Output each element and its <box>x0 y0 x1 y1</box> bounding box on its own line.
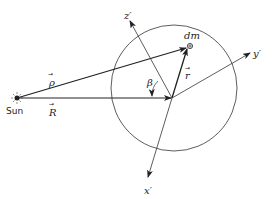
r-label: r <box>185 70 191 81</box>
planet-circle <box>111 25 237 151</box>
rho-arrow: → <box>48 70 53 77</box>
R-arrow: → <box>49 100 54 107</box>
sun-label: Sun <box>6 106 23 116</box>
vector-rho <box>17 48 186 98</box>
z-axis-label: z′ <box>123 10 132 21</box>
beta-label: β <box>146 77 153 88</box>
angle-beta-arc <box>152 81 158 96</box>
R-label: R <box>48 107 57 118</box>
y-axis-label: y′ <box>252 48 262 59</box>
diagram-canvas: Sun → ρ → R → r β dm z′ x′ y′ <box>0 0 273 199</box>
axis-x-prime <box>148 98 172 177</box>
mass-element-dm <box>187 43 192 48</box>
rho-label: ρ <box>48 77 55 88</box>
x-axis-label: x′ <box>144 185 153 196</box>
dm-label: dm <box>184 30 200 41</box>
tidal-force-diagram: Sun → ρ → R → r β dm z′ x′ y′ <box>0 0 273 199</box>
